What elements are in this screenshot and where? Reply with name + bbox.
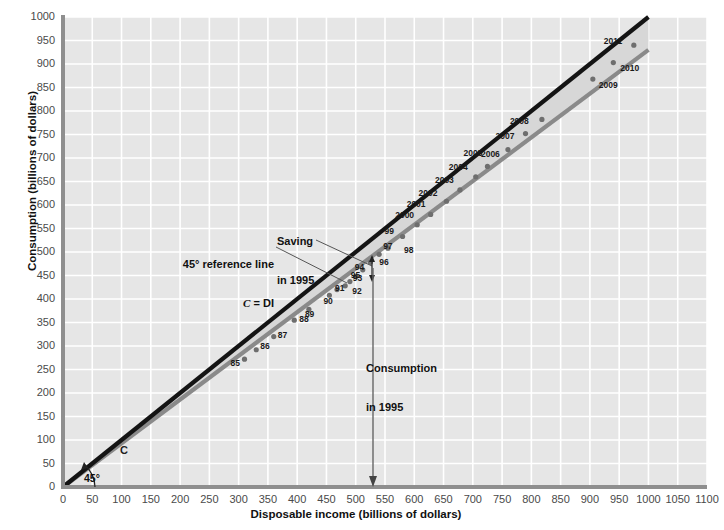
data-point — [505, 147, 510, 152]
y-axis-tick-label: 300 — [9, 339, 55, 351]
y-axis-tick-label: 200 — [9, 386, 55, 398]
annotation-saving-line1: Saving — [277, 235, 314, 248]
y-axis-tick-label: 0 — [9, 480, 55, 492]
y-axis-tick-label: 950 — [9, 34, 55, 46]
data-point-label: 2011 — [604, 36, 622, 46]
data-point — [539, 117, 544, 122]
annotation-saving-line2: in 1995 — [277, 274, 314, 287]
data-point-label: 2002 — [418, 188, 437, 198]
y-axis-tick-label: 1000 — [9, 10, 55, 22]
annotation-reference-line-line1: 45° reference line — [104, 258, 274, 271]
y-axis-tick-label: 850 — [9, 81, 55, 93]
data-point-label: 2010 — [620, 63, 639, 73]
data-point-label: 2006 — [481, 149, 500, 159]
data-point-label: 2009 — [599, 80, 618, 90]
data-point — [457, 187, 462, 192]
data-point — [523, 131, 528, 136]
y-axis-tick-label: 400 — [9, 292, 55, 304]
y-axis-tick-label: 600 — [9, 198, 55, 210]
y-axis-tick-label: 50 — [9, 457, 55, 469]
y-axis-tick-label: 500 — [9, 245, 55, 257]
data-point-label: 87 — [278, 330, 287, 340]
data-point-label: 90 — [323, 296, 332, 306]
data-point-label: 99 — [385, 226, 394, 236]
data-point — [473, 174, 478, 179]
y-axis-tick-label: 350 — [9, 316, 55, 328]
data-point — [444, 199, 449, 204]
data-point-label: 2007 — [496, 131, 515, 141]
data-point-label: 2005 — [463, 148, 482, 158]
data-point-label: 2004 — [449, 162, 468, 172]
y-axis-tick-label: 700 — [9, 151, 55, 163]
annotation-saving: Saving in 1995 — [277, 209, 314, 313]
x-axis-tick-label: 1100 — [690, 493, 724, 505]
data-point-label: 2008 — [510, 116, 529, 126]
data-point — [485, 164, 490, 169]
data-point-label: 91 — [335, 283, 344, 293]
data-point — [631, 43, 636, 48]
data-point-label: 92 — [352, 286, 361, 296]
data-point-label: 98 — [404, 245, 413, 255]
angle-45-label: 45° — [84, 472, 100, 484]
data-point — [377, 252, 382, 257]
y-axis-tick-label: 450 — [9, 269, 55, 281]
y-axis-tick-label: 900 — [9, 57, 55, 69]
consumption-line-marker: C — [120, 444, 128, 456]
data-point-label: 2001 — [407, 199, 426, 209]
data-point-label: 86 — [260, 341, 269, 351]
data-point-label: 97 — [383, 241, 392, 251]
y-axis-tick-label: 100 — [9, 433, 55, 445]
data-point-label: 2003 — [435, 175, 454, 185]
y-axis-tick-label: 650 — [9, 175, 55, 187]
y-axis-tick-label: 150 — [9, 410, 55, 422]
data-point — [254, 347, 259, 352]
y-axis-tick-label: 250 — [9, 363, 55, 375]
annotation-reference-line-line2: C = DI — [104, 297, 274, 310]
annotation-consumption-line1: Consumption — [366, 362, 437, 375]
data-point — [242, 357, 247, 362]
annotation-consumption: Consumption in 1995 — [366, 336, 437, 440]
data-point — [400, 234, 405, 239]
data-point — [292, 318, 297, 323]
data-point — [415, 222, 420, 227]
y-axis-tick-label: 550 — [9, 222, 55, 234]
data-point-label: 85 — [230, 358, 239, 368]
data-point — [611, 60, 616, 65]
annotation-consumption-line2: in 1995 — [366, 401, 437, 414]
data-point — [590, 76, 595, 81]
y-axis-tick-label: 800 — [9, 104, 55, 116]
annotation-reference-line: 45° reference line C = DI — [104, 232, 274, 336]
data-point-label: 96 — [379, 257, 388, 267]
data-point-label: 2000 — [395, 210, 414, 220]
y-axis-tick-label: 750 — [9, 128, 55, 140]
data-point-label: 95 — [351, 270, 360, 280]
data-point — [428, 212, 433, 217]
